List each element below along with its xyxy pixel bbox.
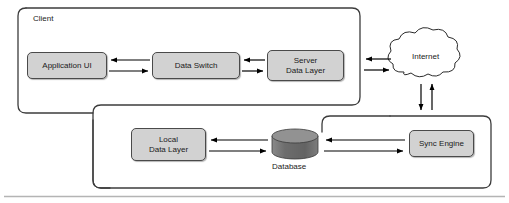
- sync-region-boundary-top: [322, 116, 390, 132]
- node-local-data-layer[interactable]: Local Data Layer: [131, 128, 206, 161]
- diagram-canvas: Client Application UI Data Switch Server…: [0, 0, 509, 203]
- node-application-ui-label: Application UI: [42, 61, 91, 71]
- node-local-data-layer-label: Local Data Layer: [149, 135, 188, 155]
- node-internet-label: Internet: [412, 52, 439, 62]
- node-sync-engine-label: Sync Engine: [419, 139, 464, 149]
- node-application-ui[interactable]: Application UI: [27, 52, 107, 79]
- node-server-data-layer[interactable]: Server Data Layer: [267, 50, 344, 81]
- node-server-data-layer-label: Server Data Layer: [286, 56, 325, 76]
- client-boundary-label: Client: [33, 14, 53, 24]
- client-boundary: [26, 8, 360, 188]
- node-database-label: Database: [272, 162, 306, 172]
- node-data-switch[interactable]: Data Switch: [152, 52, 240, 79]
- node-data-switch-label: Data Switch: [175, 61, 218, 71]
- database-cylinder: [272, 129, 318, 159]
- node-sync-engine[interactable]: Sync Engine: [409, 130, 474, 157]
- diagram-vector-layer: [0, 0, 509, 203]
